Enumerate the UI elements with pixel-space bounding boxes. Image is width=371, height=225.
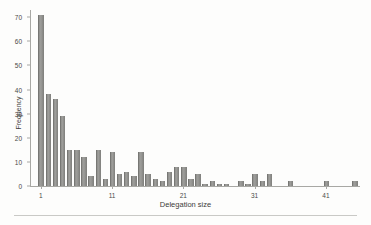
x-tick-mark [183,186,184,189]
histogram-bar [81,157,86,186]
y-tick-label: 60 [15,38,26,45]
y-tick-mark [27,41,30,42]
histogram-bar [174,167,179,186]
y-tick-label: 20 [15,134,26,141]
histogram-bar [103,179,108,186]
histogram-bar [53,99,58,186]
histogram-bar [124,172,129,186]
histogram-bar [131,176,136,186]
histogram-bar [145,174,150,186]
x-axis-line [30,186,360,187]
y-axis-line [30,10,31,187]
x-axis-title: Delegation size [0,200,371,209]
histogram-bar [88,176,93,186]
histogram-bar [60,116,65,186]
histogram-bar [267,174,272,186]
x-tick-label: 11 [109,192,116,199]
histogram-bar [195,174,200,186]
histogram-bar [153,179,158,186]
y-tick-mark [27,89,30,90]
y-tick-label: 30 [15,110,26,117]
histogram-bar [38,15,43,186]
y-tick-label: 70 [15,14,26,21]
y-tick-label: 40 [15,86,26,93]
histogram-figure: Frequency Delegation size 01020304050607… [0,0,371,225]
histogram-bar [188,179,193,186]
histogram-bar [74,150,79,186]
y-tick-mark [27,137,30,138]
histogram-bar [167,172,172,186]
histogram-bar [138,152,143,186]
x-tick-mark [255,186,256,189]
x-tick-label: 41 [322,192,329,199]
x-tick-label: 21 [180,192,187,199]
y-tick-label: 50 [15,62,26,69]
histogram-bar [252,174,257,186]
histogram-bar [117,174,122,186]
histogram-bar [67,150,72,186]
histogram-bar [96,150,101,186]
y-tick-label: 0 [18,183,26,190]
histogram-bar [46,94,51,186]
y-tick-mark [27,161,30,162]
y-tick-mark [27,17,30,18]
histogram-bar [110,152,115,186]
x-tick-label: 1 [39,192,43,199]
y-tick-mark [27,113,30,114]
y-tick-label: 10 [15,158,26,165]
y-tick-mark [27,65,30,66]
plot-area [30,10,358,186]
x-tick-mark [112,186,113,189]
histogram-bar [181,167,186,186]
x-tick-mark [41,186,42,189]
x-tick-mark [326,186,327,189]
y-tick-mark [27,186,30,187]
x-tick-label: 31 [251,192,258,199]
bottom-divider [14,215,357,216]
